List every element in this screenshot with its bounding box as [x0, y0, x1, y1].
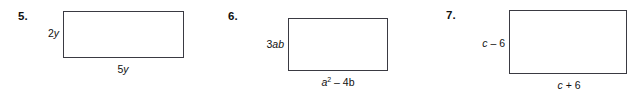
problem-number-7: 7. — [446, 10, 456, 22]
width-label-6: a2 – 4b — [303, 77, 373, 88]
rectangle-figure-5 — [63, 11, 184, 58]
worksheet-figures-row: 5. 2y 5y 6. 3ab a2 – 4b 7. c – 6 c + 6 — [0, 0, 644, 97]
problem-number-5: 5. — [18, 11, 28, 23]
width-rest-7: + 6 — [563, 79, 581, 91]
problem-5: 5. 2y 5y — [0, 0, 215, 97]
problem-7: 7. c – 6 c + 6 — [430, 0, 644, 97]
problem-6: 6. 3ab a2 – 4b — [215, 0, 430, 97]
width-tail-6: b — [349, 76, 355, 88]
height-label-7: c – 6 — [460, 38, 505, 49]
width-label-5: 5y — [93, 64, 153, 75]
height-label-6: 3ab — [241, 39, 284, 50]
width-variable-5: y — [123, 63, 128, 75]
height-rest-7: – 6 — [487, 37, 505, 49]
problem-number-6: 6. — [228, 11, 238, 23]
rectangle-figure-6 — [288, 18, 388, 71]
rectangle-figure-7 — [509, 10, 627, 74]
width-label-7: c + 6 — [534, 80, 604, 91]
width-operator-6: – 4 — [331, 76, 349, 88]
height-variable-6: ab — [272, 38, 284, 50]
height-label-5: 2y — [22, 28, 59, 39]
height-variable-5: y — [54, 27, 59, 39]
